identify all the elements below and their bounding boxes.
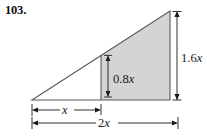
label-base-total: 2x — [98, 116, 110, 130]
label-base-total-var: x — [103, 116, 110, 130]
label-base-left: x — [61, 103, 68, 117]
label-height-middle-var: x — [128, 72, 135, 86]
label-height-right: 1.6x — [181, 51, 203, 65]
arrowhead-left-base-left — [32, 108, 38, 113]
arrowhead-right-base-left — [95, 108, 101, 113]
label-height-right-num: 1.6 — [181, 51, 197, 65]
geometry-diagram-svg: 1.6x 0.8x x 2x — [0, 0, 207, 136]
label-height-middle: 0.8x — [113, 72, 135, 86]
label-height-middle-num: 0.8 — [113, 72, 129, 86]
label-base-left-var: x — [61, 103, 68, 117]
arrowhead-down-height-right — [174, 94, 179, 100]
figure-container: 103. 1.6x 0.8x x — [0, 0, 207, 136]
label-height-right-var: x — [196, 51, 203, 65]
arrowhead-right-base-total — [172, 121, 178, 126]
arrowhead-left-base-total — [32, 121, 38, 126]
